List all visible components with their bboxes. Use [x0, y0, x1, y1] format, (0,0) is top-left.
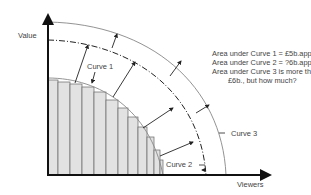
annotation-line-4: £6b., but how much?	[212, 76, 311, 85]
area-annotation: Area under Curve 1 = £5b.approx Area und…	[212, 49, 311, 85]
curve-1-label: Curve 1	[87, 62, 113, 71]
annotation-line-2: Area under Curve 2 = ?6b.approx	[212, 58, 311, 67]
y-axis-label: Value	[18, 31, 37, 40]
x-axis-label: Viewers	[237, 180, 264, 189]
curve-3-label: Curve 3	[231, 129, 257, 138]
histogram-bars	[48, 80, 163, 175]
curve-2-label: Curve 2	[166, 160, 192, 169]
annotation-line-1: Area under Curve 1 = £5b.approx	[212, 49, 311, 58]
annotation-line-3: Area under Curve 3 is more than	[212, 67, 311, 76]
diagram-canvas	[0, 0, 311, 195]
